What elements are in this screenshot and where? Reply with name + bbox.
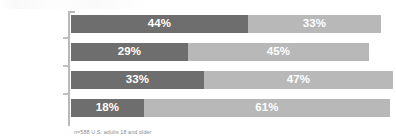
axis-tick: [63, 93, 68, 95]
bar-track-boomers: 33% 47%: [71, 71, 393, 89]
bar-value-label: 29%: [118, 46, 141, 58]
bar-value-label: 61%: [255, 102, 278, 114]
category-axis-top-cap: [68, 11, 75, 13]
bar-segment-dark[interactable]: 33%: [71, 71, 204, 89]
bar-track-gen-xers: 29% 45%: [71, 43, 369, 61]
axis-tick: [63, 37, 68, 39]
bar-segment-light[interactable]: 45%: [188, 43, 369, 61]
chart-footnote: n=588 U.S. adults 18 and older: [74, 128, 151, 136]
bar-segment-dark[interactable]: 29%: [71, 43, 188, 61]
bar-track-elders: 18% 61%: [71, 99, 390, 117]
bar-value-label: 47%: [287, 74, 310, 86]
stacked-bar-chart: Millennials 44% 33% Gen-Xers 29% 45% Boo…: [0, 0, 396, 140]
bar-segment-light[interactable]: 47%: [204, 71, 393, 89]
bar-segment-light[interactable]: 33%: [248, 15, 381, 33]
bar-segment-dark[interactable]: 18%: [71, 99, 144, 117]
axis-tick: [63, 65, 68, 67]
bar-value-label: 44%: [148, 18, 171, 30]
bar-track-millennials: 44% 33%: [71, 15, 381, 33]
bar-segment-dark[interactable]: 44%: [71, 15, 248, 33]
bar-value-label: 45%: [267, 46, 290, 58]
bar-segment-light[interactable]: 61%: [144, 99, 390, 117]
top-edge-artifact: [0, 0, 180, 9]
bar-value-label: 33%: [303, 18, 326, 30]
category-axis-line: [68, 11, 70, 126]
bar-value-label: 33%: [126, 74, 149, 86]
bar-value-label: 18%: [96, 102, 119, 114]
